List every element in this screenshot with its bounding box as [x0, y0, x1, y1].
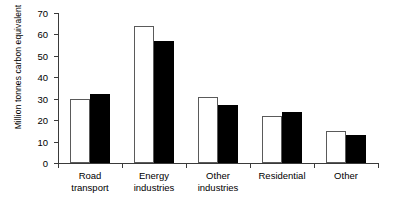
x-axis-line — [58, 163, 378, 164]
x-axis-label-line: Other — [198, 170, 239, 182]
x-axis-label: Otherindustries — [198, 170, 239, 194]
y-tick: 70 — [54, 13, 58, 14]
y-tick: 20 — [54, 120, 58, 121]
y-axis-line — [58, 13, 59, 163]
y-tick: 40 — [54, 77, 58, 78]
x-axis-label-line: Energy — [134, 170, 175, 182]
bar-open-2 — [198, 97, 218, 163]
y-tick-label: 20 — [37, 115, 48, 126]
x-tick — [58, 163, 59, 168]
x-tick — [186, 163, 187, 168]
plot-area: 010203040506070 — [58, 13, 378, 163]
x-axis-label: Energyindustries — [134, 170, 175, 194]
bar-open-1 — [134, 26, 154, 163]
x-axis-label-line: Other — [334, 170, 358, 182]
x-axis-label-line: industries — [198, 182, 239, 194]
x-tick — [250, 163, 251, 168]
y-tick-label: 10 — [37, 136, 48, 147]
x-axis-label: Roadtransport — [71, 170, 109, 194]
x-axis-label-line: Residential — [259, 170, 306, 182]
x-axis-label: Other — [334, 170, 358, 182]
x-axis-label-line: industries — [134, 182, 175, 194]
x-tick — [378, 163, 379, 168]
y-tick: 10 — [54, 142, 58, 143]
y-tick-label: 0 — [43, 158, 48, 169]
y-tick: 30 — [54, 99, 58, 100]
y-tick-label: 50 — [37, 50, 48, 61]
y-tick-label: 30 — [37, 93, 48, 104]
bar-chart: Million tonnes carbon equivalent 0102030… — [0, 0, 396, 207]
y-tick-label: 70 — [37, 8, 48, 19]
bar-filled-2 — [218, 105, 238, 163]
x-axis-label: Residential — [259, 170, 306, 182]
bar-open-4 — [326, 131, 346, 163]
y-tick: 60 — [54, 34, 58, 35]
y-axis-title: Million tonnes carbon equivalent — [13, 0, 23, 147]
x-tick — [314, 163, 315, 168]
y-tick-label: 40 — [37, 72, 48, 83]
x-tick — [122, 163, 123, 168]
bar-filled-4 — [346, 135, 366, 163]
y-tick-label: 60 — [37, 29, 48, 40]
bar-filled-1 — [154, 41, 174, 163]
bar-filled-0 — [90, 94, 110, 163]
bar-open-0 — [70, 99, 90, 163]
bar-filled-3 — [282, 112, 302, 163]
bar-open-3 — [262, 116, 282, 163]
y-tick: 50 — [54, 56, 58, 57]
x-axis-label-line: Road — [71, 170, 109, 182]
x-axis-label-line: transport — [71, 182, 109, 194]
